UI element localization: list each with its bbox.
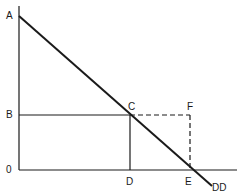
label-e: E (185, 177, 192, 187)
label-f: F (187, 102, 193, 112)
label-c: C (128, 102, 135, 112)
diagram-canvas (0, 0, 239, 196)
label-b: B (6, 110, 13, 120)
label-demand-dd: DD (212, 183, 226, 193)
demand-curve-dd (19, 16, 212, 186)
label-d: D (126, 177, 133, 187)
label-origin: 0 (6, 165, 12, 175)
label-a: A (6, 11, 13, 21)
